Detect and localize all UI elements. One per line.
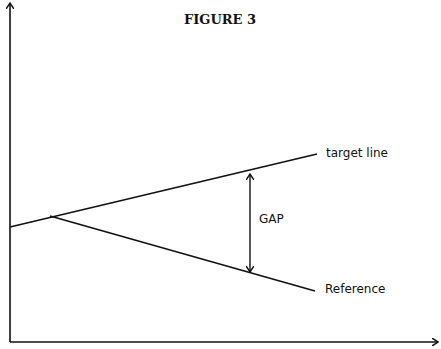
reference-line	[50, 216, 315, 291]
diagram-canvas	[0, 0, 441, 349]
reference-label: Reference	[325, 282, 385, 296]
gap-label: GAP	[259, 212, 284, 226]
target-line-label: target line	[326, 146, 388, 160]
